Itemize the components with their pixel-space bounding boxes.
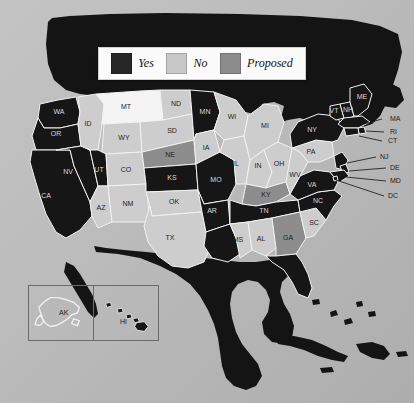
svg-text:WY: WY (118, 134, 130, 141)
inset-alaska: AK (28, 285, 94, 341)
legend-item-proposed[interactable]: Proposed (220, 53, 293, 74)
svg-text:MS: MS (233, 236, 244, 243)
svg-text:ND: ND (171, 100, 181, 107)
svg-text:KS: KS (167, 174, 177, 181)
svg-text:IL: IL (233, 160, 239, 167)
svg-text:TN: TN (259, 207, 268, 214)
svg-text:UT: UT (94, 166, 104, 173)
svg-text:CT: CT (388, 137, 398, 144)
svg-text:ME: ME (357, 93, 368, 100)
svg-text:VA: VA (308, 181, 317, 188)
inset-hawaii: HI (93, 285, 159, 341)
svg-text:MD: MD (390, 177, 401, 184)
legend-label-no: No (193, 56, 207, 71)
svg-text:SC: SC (309, 219, 319, 226)
svg-text:AR: AR (207, 207, 217, 214)
svg-text:NH: NH (343, 106, 353, 113)
svg-text:GA: GA (283, 234, 293, 241)
svg-text:KY: KY (261, 191, 271, 198)
legend-swatch-no (166, 53, 187, 74)
svg-text:MN: MN (200, 108, 211, 115)
map-figure: WA OR CA NV ID MT WY UT CO AZ NM ND SD N… (0, 0, 414, 403)
svg-text:MO: MO (210, 176, 222, 183)
hawaii-shape (94, 286, 158, 340)
svg-text:NM: NM (123, 200, 134, 207)
svg-text:CO: CO (121, 166, 132, 173)
svg-text:MA: MA (390, 115, 401, 122)
inset-label-ak: AK (59, 309, 68, 316)
svg-text:OR: OR (51, 130, 62, 137)
legend-item-no[interactable]: No (166, 53, 207, 74)
svg-text:MT: MT (121, 103, 132, 110)
svg-text:WV: WV (289, 171, 301, 178)
svg-text:OK: OK (169, 198, 179, 205)
svg-text:SD: SD (167, 127, 177, 134)
svg-text:OH: OH (274, 160, 285, 167)
svg-text:DC: DC (388, 192, 398, 199)
svg-text:DE: DE (390, 164, 400, 171)
legend-item-yes[interactable]: Yes (111, 53, 154, 74)
state-CT (344, 128, 359, 136)
legend-swatch-yes (111, 53, 132, 74)
svg-text:NE: NE (165, 151, 175, 158)
svg-text:AL: AL (257, 235, 266, 242)
svg-text:TX: TX (166, 234, 175, 241)
leader-labels: MA RI CT NJ DE MD DC (380, 115, 401, 199)
legend-label-proposed: Proposed (247, 56, 293, 71)
svg-text:MI: MI (261, 122, 269, 129)
svg-text:NY: NY (307, 126, 317, 133)
legend-label-yes: Yes (138, 56, 154, 71)
svg-text:IN: IN (255, 162, 262, 169)
svg-text:PA: PA (307, 148, 316, 155)
map-legend: Yes No Proposed (98, 47, 306, 80)
svg-text:CA: CA (41, 192, 51, 199)
svg-text:AZ: AZ (97, 204, 107, 211)
svg-text:NV: NV (63, 168, 73, 175)
svg-text:WI: WI (228, 113, 237, 120)
svg-text:RI: RI (390, 128, 397, 135)
svg-text:NC: NC (313, 197, 323, 204)
inset-label-hi: HI (120, 318, 127, 325)
svg-text:VT: VT (330, 107, 340, 114)
svg-text:ID: ID (85, 120, 92, 127)
legend-swatch-proposed (220, 53, 241, 74)
svg-text:IA: IA (203, 144, 210, 151)
svg-text:NJ: NJ (380, 153, 389, 160)
svg-text:WA: WA (53, 108, 64, 115)
